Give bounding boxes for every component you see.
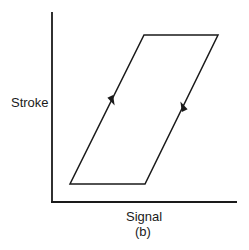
figure-caption: (b) <box>135 225 151 239</box>
x-axis-label: Signal <box>126 210 162 224</box>
up-arrow-icon <box>177 100 187 112</box>
y-axis-label: Stroke <box>11 96 49 110</box>
hysteresis-loop <box>70 35 218 184</box>
hysteresis-diagram <box>0 0 249 250</box>
